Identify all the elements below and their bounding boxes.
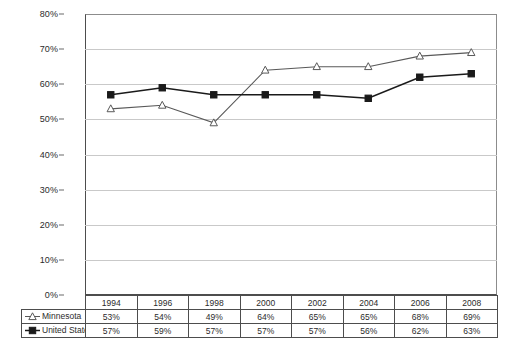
table-header-row: 19941996199820002002200420062008 [22, 296, 498, 310]
y-axis-tick-label: 80% [40, 9, 58, 19]
y-axis-tick-label: 60% [40, 79, 58, 89]
data-point-marker-triangle [159, 101, 166, 108]
table-cell: 49% [189, 310, 241, 324]
y-axis-tick-label: 70% [40, 44, 58, 54]
table-corner-cell [22, 296, 86, 310]
table-cell: 53% [86, 310, 138, 324]
table-cell: 54% [137, 310, 189, 324]
table-cell: 68% [395, 310, 447, 324]
data-point-marker-square [108, 92, 114, 98]
legend-label: Minnesota [42, 312, 81, 321]
y-axis-tick-mark [59, 119, 64, 120]
y-axis-tick-mark [59, 154, 64, 155]
table-cell: 57% [292, 324, 344, 338]
data-point-marker-square [365, 95, 371, 101]
y-axis-tick-label: 40% [40, 150, 58, 160]
data-point-marker-triangle [313, 63, 320, 70]
table-cell: 57% [189, 324, 241, 338]
data-table: 19941996199820002002200420062008Minnesot… [21, 295, 498, 338]
data-point-marker-square [262, 92, 268, 98]
y-axis-tick-mark [59, 224, 64, 225]
data-point-marker-square [417, 74, 423, 80]
y-axis-tick-label: 10% [40, 255, 58, 265]
table-year-header: 2006 [395, 296, 447, 310]
legend-marker-icon [24, 312, 41, 321]
y-axis-tick-mark [59, 84, 64, 85]
legend-label: United States [42, 326, 86, 335]
data-point-marker-square [159, 85, 165, 91]
data-point-marker-square [468, 71, 474, 77]
y-axis-tick-mark [59, 259, 64, 260]
table-cell: 69% [446, 310, 498, 324]
y-axis-tick-label: 20% [40, 220, 58, 230]
y-axis-tick-mark [59, 14, 64, 15]
series-lines [85, 14, 497, 295]
data-point-marker-triangle [468, 49, 475, 56]
table-row: Minnesota53%54%49%64%65%65%68%69% [22, 310, 498, 324]
y-axis-tick-mark [59, 49, 64, 50]
table-year-header: 1996 [137, 296, 189, 310]
table-year-header: 2004 [343, 296, 395, 310]
table-cell: 64% [240, 310, 292, 324]
plot-area [85, 14, 497, 295]
y-axis-tick-label: 30% [40, 185, 58, 195]
y-axis-tick-label: 50% [40, 114, 58, 124]
table-cell: 57% [86, 324, 138, 338]
table-year-header: 1998 [189, 296, 241, 310]
table-row: United States57%59%57%57%57%56%62%63% [22, 324, 498, 338]
data-point-marker-square [314, 92, 320, 98]
table-cell: 59% [137, 324, 189, 338]
data-point-marker-square [211, 92, 217, 98]
table-year-header: 1994 [86, 296, 138, 310]
table-cell: 65% [292, 310, 344, 324]
y-axis-tick-mark [59, 189, 64, 190]
table-year-header: 2002 [292, 296, 344, 310]
table-cell: 62% [395, 324, 447, 338]
series-united-states [108, 71, 475, 102]
table-cell: 57% [240, 324, 292, 338]
legend-item-minnesota: Minnesota [22, 310, 86, 324]
table-cell: 63% [446, 324, 498, 338]
table-year-header: 2000 [240, 296, 292, 310]
y-axis: 80%70%60%50%40%30%20%10%0% [0, 0, 85, 296]
chart-root: 80%70%60%50%40%30%20%10%0% 1994199619982… [0, 0, 523, 355]
table-cell: 56% [343, 324, 395, 338]
table-year-header: 2008 [446, 296, 498, 310]
legend-item-united-states: United States [22, 324, 86, 338]
legend-marker-icon [24, 326, 41, 335]
table-cell: 65% [343, 310, 395, 324]
